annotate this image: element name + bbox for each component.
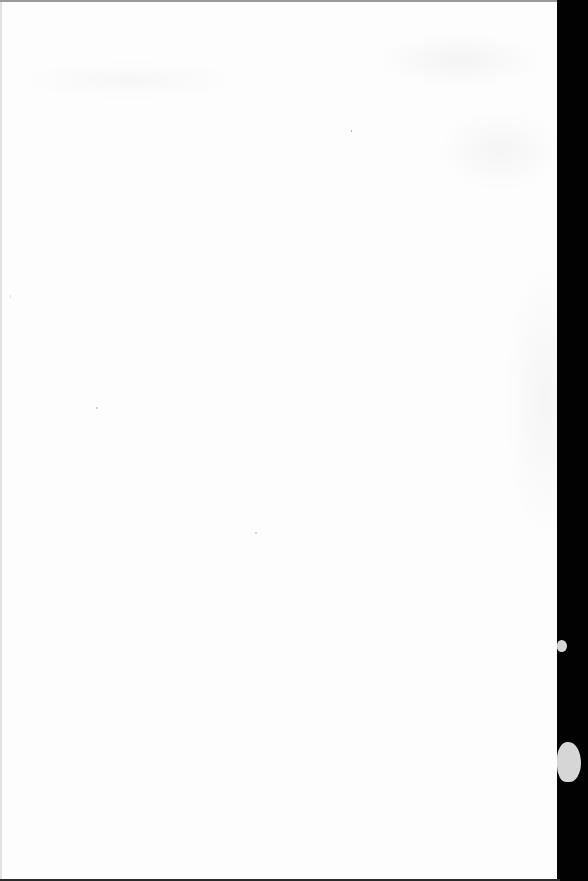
blank-paper-sheet <box>0 0 557 881</box>
scanned-page <box>0 0 588 881</box>
scan-speck <box>96 407 98 409</box>
scan-speck <box>10 295 11 298</box>
paper-edge-fragment <box>557 742 581 782</box>
scan-speck <box>351 130 352 132</box>
scan-speck <box>255 532 257 534</box>
paper-edge-fragment <box>557 640 567 652</box>
